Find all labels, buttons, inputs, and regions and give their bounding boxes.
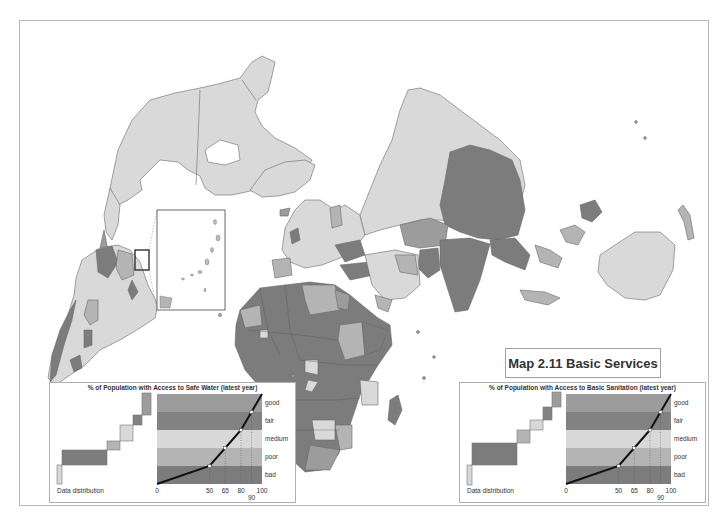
india [440,238,490,312]
tick-0: 0 [155,487,159,494]
tick-100: 100 [257,487,268,494]
legend-safe-water: % of Population with Access to Safe Wate… [49,382,296,503]
dist-bar-bad [57,465,62,484]
legend-chart [460,383,705,502]
tick-65: 65 [631,487,638,494]
class-label-poor: poor [674,453,687,460]
dist-bar-medium [530,420,543,430]
class-label-medium: medium [265,435,288,442]
australia [598,232,675,300]
class-label-good: good [265,399,279,406]
dist-bar-medium-lo [517,430,530,443]
class-label-medium: medium [674,435,697,442]
dist-bar-bad [467,465,472,485]
dist-bar-medium [120,425,133,441]
tick-100: 100 [666,487,677,494]
dist-bar-good [552,392,561,407]
tick-50: 50 [206,487,213,494]
dist-bar-poor [472,443,517,465]
tick-0: 0 [564,487,568,494]
tick-65: 65 [222,487,229,494]
legend-basic-sanitation: % of Population with Access to Basic San… [459,382,706,503]
map-title: Map 2.11 Basic Services [505,348,661,378]
class-label-fair: fair [265,417,274,424]
distribution-label: Data distribution [57,487,104,494]
class-label-fair: fair [674,417,683,424]
tick-90: 90 [248,494,255,501]
tick-90: 90 [657,494,664,501]
tick-80: 80 [237,487,244,494]
dist-bar-fair [543,407,552,420]
class-label-bad: bad [265,471,276,478]
tick-50: 50 [615,487,622,494]
dist-bar-poor [62,450,107,465]
legend-chart [50,383,295,502]
distribution-label: Data distribution [467,487,514,494]
class-label-poor: poor [265,453,278,460]
dist-bar-good [142,393,151,415]
class-label-good: good [674,399,688,406]
dist-bar-fair [133,415,142,425]
class-label-bad: bad [674,471,685,478]
tick-80: 80 [646,487,653,494]
dist-bar-medium-lo [107,441,120,450]
